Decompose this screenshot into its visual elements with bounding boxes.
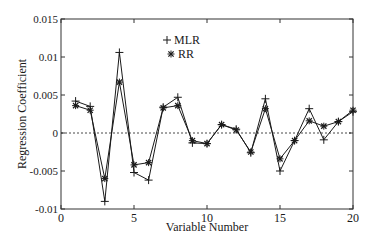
- x-axis-label: Variable Number: [166, 220, 248, 234]
- y-tick-label: -0.01: [35, 203, 58, 215]
- x-tick-label: 0: [58, 211, 64, 225]
- legend: MLRRR: [163, 33, 200, 61]
- legend-label: RR: [178, 47, 194, 61]
- y-tick-label: -0.005: [30, 165, 59, 177]
- x-tick-label: 5: [131, 211, 137, 225]
- y-axis-label: Regression Coefficient: [15, 58, 29, 169]
- data-series: [72, 48, 357, 205]
- y-tick-label: 0.01: [39, 51, 58, 63]
- series-mlr: [72, 48, 357, 205]
- legend-label: MLR: [174, 33, 200, 47]
- x-tick-label: 20: [347, 211, 359, 225]
- y-tick-label: 0: [53, 127, 59, 139]
- legend-entry-mlr: MLR: [163, 33, 200, 47]
- regression-coefficient-chart: 05101520-0.01-0.00500.0050.010.015 MLRRR…: [0, 0, 374, 239]
- legend-entry-rr: RR: [168, 47, 195, 61]
- y-tick-label: 0.015: [33, 13, 58, 25]
- series-rr: [72, 79, 356, 183]
- y-tick-label: 0.005: [33, 89, 58, 101]
- x-tick-label: 15: [274, 211, 286, 225]
